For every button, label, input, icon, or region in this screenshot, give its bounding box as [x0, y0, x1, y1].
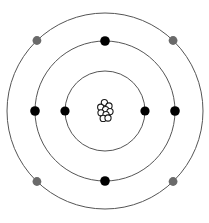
electron-l-left — [30, 106, 40, 116]
electron-l-top — [100, 36, 110, 46]
electron-m-bottom-left — [33, 177, 42, 186]
diagram-canvas — [0, 0, 209, 223]
electron-l-right — [170, 106, 180, 116]
electron-k-left — [60, 106, 69, 115]
electron-m-bottom-right — [169, 177, 178, 186]
electron-m-top-right — [169, 36, 178, 45]
nucleon-9 — [105, 115, 111, 121]
electron-l-bottom — [100, 176, 110, 186]
electron-m-top-left — [33, 36, 42, 45]
bohr-atom-diagram — [0, 0, 209, 223]
electron-k-right — [140, 106, 149, 115]
